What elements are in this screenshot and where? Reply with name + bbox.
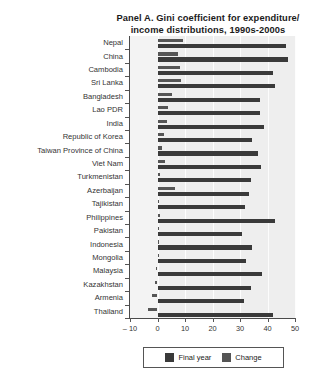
chart-title: Panel A. Gini coefficient for expenditur… — [96, 13, 320, 36]
bar-final-year — [158, 272, 262, 276]
legend-swatch-icon — [222, 353, 231, 362]
bar-final-year — [158, 299, 245, 303]
negative-region-shading — [130, 36, 158, 318]
bar-change — [158, 200, 159, 203]
y-axis-tick — [125, 278, 129, 279]
y-axis-tick — [125, 264, 129, 265]
x-axis-tick — [240, 318, 241, 322]
chart-figure: Panel A. Gini coefficient for expenditur… — [0, 0, 324, 371]
x-axis-tick-label: – 10 — [123, 324, 137, 333]
gridline-50 — [295, 36, 296, 318]
y-axis-label: Sri Lanka — [91, 78, 123, 87]
y-axis-label: Turkmenistan — [77, 172, 123, 181]
bar-final-year — [158, 192, 249, 196]
bar-change — [158, 52, 178, 55]
x-axis-tick-label: 10 — [181, 324, 189, 333]
y-axis-label: Nepal — [103, 38, 123, 47]
bar-change — [158, 227, 160, 230]
chart-title-line-2: income distributions, 1990s-2000s — [96, 25, 320, 37]
x-axis-tick — [295, 318, 296, 322]
legend-final-year: Final year — [165, 353, 211, 362]
x-axis-tick-label: 40 — [263, 324, 271, 333]
bar-change — [158, 120, 167, 123]
bar-final-year — [158, 98, 261, 102]
x-axis-tick — [268, 318, 269, 322]
bar-final-year — [158, 57, 288, 61]
bar-change — [158, 214, 160, 217]
y-axis-tick — [125, 49, 129, 50]
x-axis-tick — [213, 318, 214, 322]
chart-legend: Final yearChange — [143, 347, 284, 368]
y-axis-label: Thailand — [94, 307, 123, 316]
y-axis-tick — [125, 251, 129, 252]
y-axis-label: Malaysia — [93, 266, 123, 275]
bar-final-year — [158, 138, 253, 142]
bar-change — [158, 39, 184, 42]
legend-label: Final year — [178, 353, 211, 362]
bar-change — [158, 173, 161, 176]
y-axis-labels: NepalChinaCambodiaSri LankaBangladeshLao… — [0, 36, 127, 318]
y-axis-label: Azerbaijan — [87, 186, 123, 195]
y-axis-tick — [125, 237, 129, 238]
bar-change — [158, 93, 172, 96]
x-axis-tick — [130, 318, 131, 322]
y-axis-label: Pakistan — [94, 226, 123, 235]
legend-swatch-icon — [165, 353, 174, 362]
y-axis-tick — [125, 76, 129, 77]
y-axis-label: India — [107, 119, 123, 128]
bar-final-year — [158, 205, 246, 209]
y-axis-label: Tajikistan — [92, 199, 123, 208]
y-axis-label: Kazakhstan — [83, 280, 123, 289]
y-axis-label: Taiwan Province of China — [37, 146, 123, 155]
y-axis-label: Viet Nam — [92, 159, 123, 168]
plot-canvas — [130, 36, 295, 318]
bar-change — [158, 79, 182, 82]
y-axis-tick — [125, 103, 129, 104]
y-axis-tick — [125, 170, 129, 171]
y-axis-label: Indonesia — [90, 240, 123, 249]
bar-change — [155, 281, 157, 284]
y-axis-tick — [125, 184, 129, 185]
x-axis-tick-label: 50 — [291, 324, 299, 333]
bar-final-year — [158, 219, 276, 223]
plot-area: NepalChinaCambodiaSri LankaBangladeshLao… — [0, 36, 324, 321]
bar-change — [158, 240, 159, 243]
y-axis-label: Cambodia — [88, 65, 123, 74]
bar-change — [158, 160, 165, 163]
y-axis-tick — [125, 130, 129, 131]
chart-title-line-1: Panel A. Gini coefficient for expenditur… — [96, 13, 320, 25]
y-axis-tick — [125, 63, 129, 64]
bar-change — [152, 294, 157, 297]
bar-change — [158, 133, 164, 136]
y-axis-label: Mongolia — [92, 253, 123, 262]
bar-final-year — [158, 44, 287, 48]
page-text-remnant — [0, 0, 324, 9]
bar-final-year — [158, 245, 252, 249]
x-axis-tick-label: 30 — [236, 324, 244, 333]
gridline-40 — [268, 36, 269, 318]
y-axis-label: Philippines — [86, 213, 123, 222]
y-axis-tick — [125, 305, 129, 306]
bar-final-year — [158, 111, 261, 115]
bar-change — [148, 308, 158, 311]
bar-change — [158, 187, 175, 190]
bar-final-year — [158, 165, 262, 169]
x-axis-tick-label: 0 — [155, 324, 159, 333]
y-axis-tick — [125, 224, 129, 225]
bar-final-year — [158, 71, 273, 75]
legend-change: Change — [222, 353, 261, 362]
bar-final-year — [158, 286, 251, 290]
bar-change — [158, 146, 162, 149]
bar-final-year — [158, 313, 274, 317]
y-axis-tick — [125, 197, 129, 198]
y-axis-tick — [125, 211, 129, 212]
bar-final-year — [158, 178, 252, 182]
bar-final-year — [158, 151, 259, 155]
x-axis-tick-label: 20 — [208, 324, 216, 333]
y-axis-tick — [125, 117, 129, 118]
y-axis-tick — [125, 291, 129, 292]
y-axis-label: Republic of Korea — [63, 132, 123, 141]
legend-label: Change — [235, 353, 261, 362]
bar-change — [158, 254, 159, 257]
bar-final-year — [158, 125, 264, 129]
